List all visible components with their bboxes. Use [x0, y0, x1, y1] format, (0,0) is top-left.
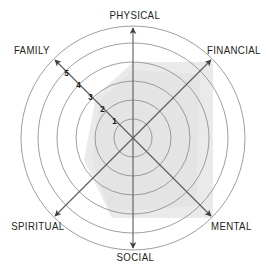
axis-label-family: FAMILY	[14, 44, 50, 56]
axis-label-social: SOCIAL	[117, 251, 155, 263]
axis-label-physical: PHYSICAL	[109, 9, 160, 21]
scale-tick-2: 2	[100, 105, 105, 114]
scale-tick-1: 1	[112, 117, 117, 126]
scale-tick-5: 5	[64, 69, 69, 78]
axis-label-mental: MENTAL	[211, 220, 252, 232]
scale-tick-3: 3	[88, 93, 93, 102]
axis-label-financial: FINANCIAL	[207, 44, 261, 56]
shaded-region	[84, 62, 213, 218]
wheel-of-life-chart: PHYSICAL FINANCIAL MENTAL SOCIAL SPIRITU…	[0, 0, 266, 270]
axis-label-spiritual: SPIRITUAL	[11, 220, 64, 232]
scale-tick-4: 4	[76, 81, 81, 90]
